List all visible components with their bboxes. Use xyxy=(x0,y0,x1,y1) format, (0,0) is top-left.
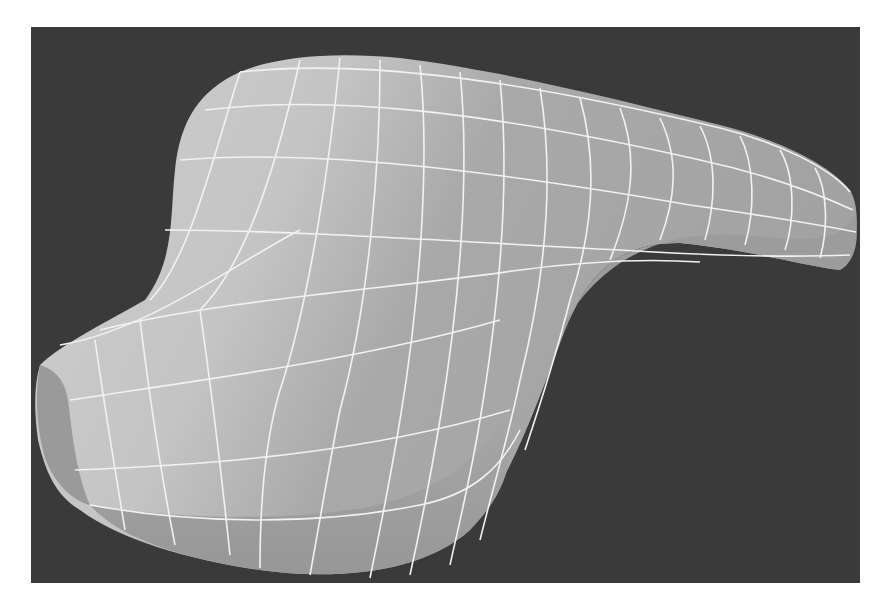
mesh-render xyxy=(31,27,860,583)
render-viewport xyxy=(31,27,860,583)
